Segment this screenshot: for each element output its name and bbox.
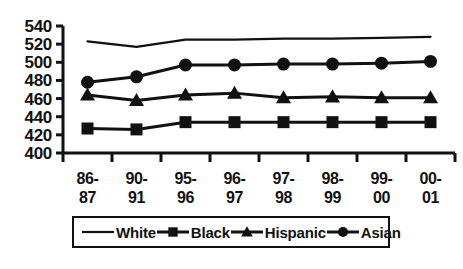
x-axis-tick-label: 99- xyxy=(370,170,392,187)
x-axis-tick-label: 97- xyxy=(272,170,294,187)
data-point-marker-circle xyxy=(375,57,388,70)
legend-item-asian[interactable]: Asian xyxy=(326,222,401,242)
legend-marker-circle-icon xyxy=(326,222,360,242)
legend-label: White xyxy=(116,224,156,241)
legend-marker-triangle-icon xyxy=(230,222,264,242)
data-point-marker-circle xyxy=(81,76,94,89)
legend-item-black[interactable]: Black xyxy=(156,222,230,242)
data-point-marker-square xyxy=(327,116,339,128)
data-point-marker-circle xyxy=(277,58,290,71)
y-axis-tick-label: 460 xyxy=(25,90,52,109)
data-point-marker-circle xyxy=(424,55,437,68)
plot-area: 400420440460480500520540 86-8790-9195-96… xyxy=(0,0,463,200)
legend-label: Asian xyxy=(361,224,401,241)
data-point-marker-square xyxy=(376,116,388,128)
legend-item-hispanic[interactable]: Hispanic xyxy=(230,222,326,242)
y-axis-tick-label: 480 xyxy=(25,71,52,90)
data-point-marker-square xyxy=(229,116,241,128)
legend-label: Black xyxy=(191,224,230,241)
data-point-marker-circle xyxy=(179,59,192,72)
data-point-marker-square xyxy=(180,116,192,128)
data-point-marker-circle xyxy=(326,58,339,71)
x-axis-tick-label: 01 xyxy=(422,189,440,206)
x-axis-tick-label: 99 xyxy=(324,189,342,206)
y-axis-tick-label: 540 xyxy=(25,17,52,36)
x-axis-tick-label: 87 xyxy=(79,189,97,206)
data-point-marker-square xyxy=(131,123,143,135)
data-point-marker-square xyxy=(82,123,94,135)
data-series-white xyxy=(88,37,431,47)
x-axis-tick-label: 96 xyxy=(177,189,195,206)
chart-legend: WhiteBlackHispanicAsian xyxy=(72,216,390,248)
data-point-marker-square xyxy=(425,116,437,128)
data-point-marker-square xyxy=(168,227,177,236)
data-series-hispanic xyxy=(80,86,438,106)
series-line xyxy=(88,37,431,47)
x-axis-tick-label: 00- xyxy=(419,170,441,187)
data-point-marker-circle xyxy=(130,70,143,83)
y-axis-tick-label: 420 xyxy=(25,126,52,145)
y-axis-tick-label: 400 xyxy=(25,144,52,163)
legend-label: Hispanic xyxy=(265,224,326,241)
x-axis-tick-label: 97 xyxy=(226,189,244,206)
data-point-marker-triangle xyxy=(80,87,95,100)
y-axis-tick-labels: 400420440460480500520540 xyxy=(25,17,52,163)
y-axis: 400420440460480500520540 xyxy=(25,17,63,163)
data-series-black xyxy=(82,116,437,135)
y-axis-tick-label: 500 xyxy=(25,53,52,72)
x-axis-tick-label: 00 xyxy=(373,189,391,206)
legend-item-white[interactable]: White xyxy=(81,222,156,242)
x-axis-tick-label: 98- xyxy=(321,170,343,187)
y-axis-tick-label: 440 xyxy=(25,108,52,127)
x-axis-tick-label: 96- xyxy=(223,170,245,187)
x-axis-tick-label: 90- xyxy=(125,170,147,187)
legend-marker-none-icon xyxy=(81,222,115,242)
y-axis-tick-label: 520 xyxy=(25,35,52,54)
x-axis: 86-8790-9195-9696-9797-9898-9999-0000-01 xyxy=(63,153,455,206)
x-axis-tick-label: 95- xyxy=(174,170,196,187)
legend-marker-square-icon xyxy=(156,222,190,242)
data-point-marker-square xyxy=(278,116,290,128)
data-series-asian xyxy=(81,55,437,89)
data-series-group xyxy=(80,37,438,136)
data-point-marker-circle xyxy=(338,227,348,237)
chart-figure: 400420440460480500520540 86-8790-9195-96… xyxy=(0,0,463,269)
data-point-marker-circle xyxy=(228,59,241,72)
x-axis-tick-label: 98 xyxy=(275,189,293,206)
x-axis-tick-labels: 86-8790-9195-9696-9797-9898-9999-0000-01 xyxy=(76,170,441,206)
x-axis-tick-label: 91 xyxy=(128,189,146,206)
line-chart-svg: 400420440460480500520540 86-8790-9195-96… xyxy=(0,0,463,210)
x-axis-tick-label: 86- xyxy=(76,170,98,187)
